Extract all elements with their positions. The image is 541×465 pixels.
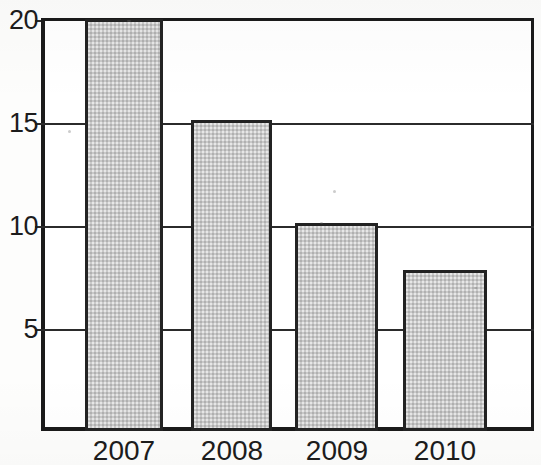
y-axis-label-20: 20 bbox=[0, 7, 38, 34]
y-axis-label-10: 10 bbox=[0, 213, 38, 240]
y-axis-label-15: 15 bbox=[0, 110, 38, 137]
x-axis-label-2007: 2007 bbox=[93, 437, 155, 465]
bar-2009 bbox=[295, 223, 378, 431]
x-axis-label-2010: 2010 bbox=[414, 437, 476, 465]
bar-2010 bbox=[403, 270, 487, 431]
bar-chart: 20 15 10 5 2007 2008 2009 2010 bbox=[0, 0, 541, 465]
bar-2007 bbox=[85, 19, 163, 431]
bar-2008 bbox=[191, 120, 272, 431]
x-axis-label-2009: 2009 bbox=[306, 437, 368, 465]
x-axis-label-2008: 2008 bbox=[201, 437, 263, 465]
y-axis-label-5: 5 bbox=[0, 316, 38, 343]
